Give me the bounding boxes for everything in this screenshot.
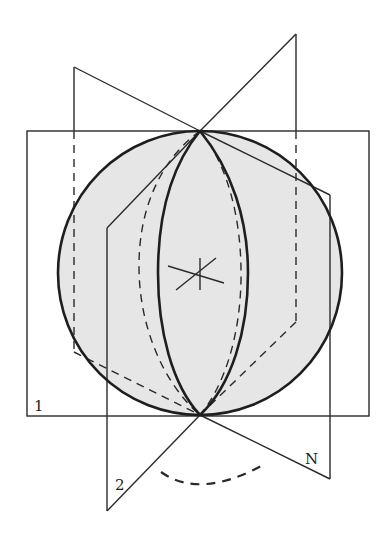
label-plane-1: 1	[34, 397, 44, 415]
sphere-planes-diagram: 1 2 N	[0, 0, 390, 540]
dihedral-angle-arc	[161, 464, 265, 484]
label-plane-2: 2	[115, 476, 125, 494]
label-plane-n: N	[305, 450, 318, 468]
